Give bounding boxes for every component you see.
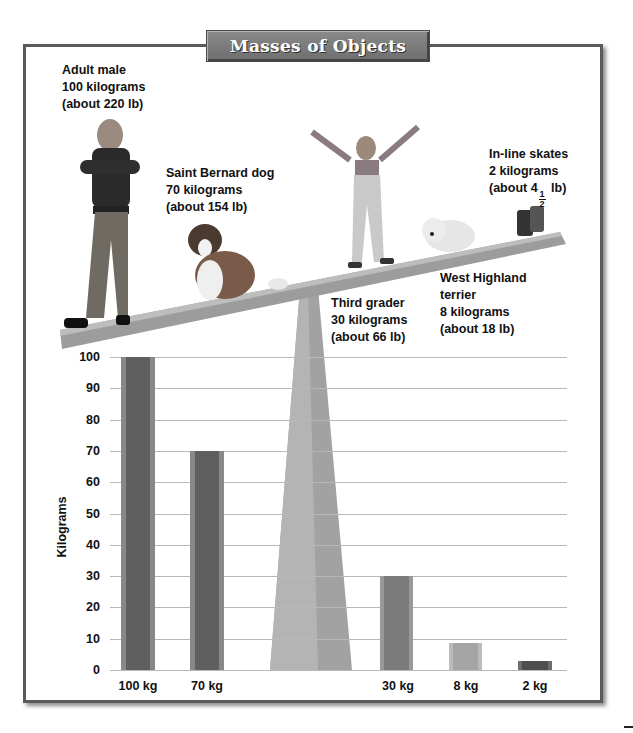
xtick-30kg: 30 kg (368, 679, 428, 693)
annotation-inline-skates: In-line skates 2 kilograms (about 412 lb… (489, 146, 568, 209)
westie-figure (422, 218, 475, 252)
annotation-name-cont: terrier (440, 287, 527, 304)
annotation-mass: 2 kilograms (489, 163, 568, 180)
fraction-denominator: 2 (539, 200, 546, 209)
bar-2kg (518, 661, 552, 670)
y-axis-label: Kilograms (55, 487, 69, 567)
gridline-100 (110, 357, 567, 358)
page-corner-mark (624, 726, 633, 728)
third-grader-figure (312, 127, 418, 268)
gridline-40 (110, 545, 567, 546)
annotation-mass: 100 kilograms (62, 79, 145, 96)
bar-30kg (380, 576, 413, 670)
annotation-saint-bernard: Saint Bernard dog 70 kilograms (about 15… (166, 165, 274, 216)
adult-male-figure (64, 119, 140, 328)
ytick-0: 0 (60, 663, 100, 677)
fraction: 12 (539, 190, 546, 209)
gridline-70 (110, 451, 567, 452)
annotation-approx: (about 18 lb) (440, 321, 527, 338)
annotation-name: Third grader (331, 295, 407, 312)
annotation-name: In-line skates (489, 146, 568, 163)
inline-skates-figure (517, 206, 544, 236)
gridline-30 (110, 576, 567, 577)
annotation-approx: (about 66 lb) (331, 329, 407, 346)
ytick-100: 100 (60, 350, 100, 364)
ytick-30: 30 (60, 569, 100, 583)
gridline-20 (110, 607, 567, 608)
gridline-10 (110, 639, 567, 640)
ytick-90: 90 (60, 381, 100, 395)
ytick-70: 70 (60, 444, 100, 458)
ytick-20: 20 (60, 600, 100, 614)
annotation-name: Adult male (62, 62, 145, 79)
annotation-westie: West Highland terrier 8 kilograms (about… (440, 270, 527, 338)
xtick-70kg: 70 kg (177, 679, 237, 693)
gridline-50 (110, 514, 567, 515)
approx-prefix: (about 4 (489, 181, 538, 195)
annotation-approx: (about 220 lb) (62, 96, 145, 113)
xtick-2kg: 2 kg (505, 679, 565, 693)
bar-8kg (449, 643, 482, 670)
saint-bernard-figure (188, 224, 288, 300)
annotation-approx: (about 412 lb) (489, 180, 568, 209)
annotation-mass: 8 kilograms (440, 304, 527, 321)
gridline-60 (110, 482, 567, 483)
bar-100kg (121, 357, 155, 670)
annotation-mass: 70 kilograms (166, 182, 274, 199)
ytick-80: 80 (60, 413, 100, 427)
ytick-10: 10 (60, 632, 100, 646)
annotation-mass: 30 kilograms (331, 312, 407, 329)
gridline-0 (110, 670, 567, 671)
gridline-80 (110, 420, 567, 421)
gridline-90 (110, 388, 567, 389)
annotation-adult-male: Adult male 100 kilograms (about 220 lb) (62, 62, 145, 113)
chart-title: Masses of Objects (230, 36, 406, 56)
xtick-100kg: 100 kg (108, 679, 168, 693)
bar-70kg (190, 451, 224, 670)
xtick-8kg: 8 kg (436, 679, 496, 693)
approx-suffix: lb) (551, 181, 566, 195)
annotation-name: Saint Bernard dog (166, 165, 274, 182)
annotation-name: West Highland (440, 270, 527, 287)
annotation-third-grader: Third grader 30 kilograms (about 66 lb) (331, 295, 407, 346)
title-banner: Masses of Objects (206, 30, 430, 62)
annotation-approx: (about 154 lb) (166, 199, 274, 216)
